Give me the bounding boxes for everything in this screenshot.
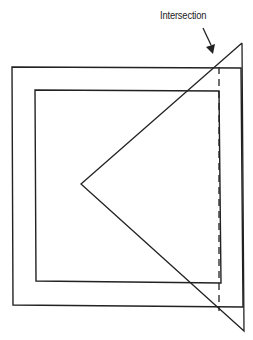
inner-rectangle [35, 90, 221, 283]
intersection-label: Intersection [160, 9, 206, 21]
arrow-head-icon [206, 44, 215, 54]
diagram-canvas [0, 0, 253, 340]
outer-rectangle [12, 67, 243, 307]
arrow-shaft [203, 28, 211, 45]
